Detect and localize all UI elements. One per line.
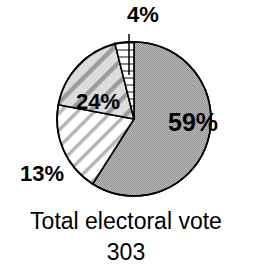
pie-label-4: 4%	[127, 2, 159, 27]
pie-label-59: 59%	[168, 108, 218, 136]
caption-line-2: 303	[107, 239, 145, 265]
caption-line-1: Total electoral vote	[30, 208, 222, 234]
pie-label-24: 24%	[76, 89, 120, 114]
pie-chart-figure: 59% 24% 13% 4% Total electoral vote 303	[0, 0, 256, 271]
pie-chart-svg: 59% 24% 13% 4% Total electoral vote 303	[0, 0, 256, 271]
pie-label-13: 13%	[20, 161, 64, 186]
